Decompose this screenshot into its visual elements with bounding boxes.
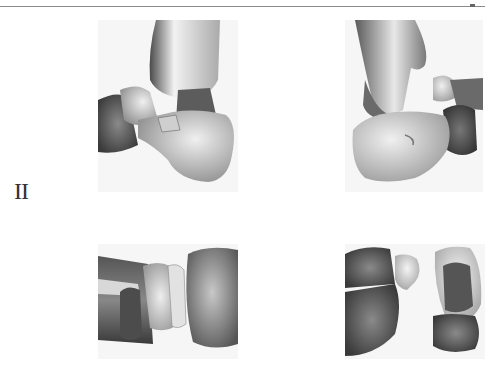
bone-render-image	[345, 244, 485, 359]
header-rule	[0, 6, 485, 7]
figure-panel-top-left	[98, 20, 238, 192]
bone-render-image	[98, 20, 238, 192]
figure-panel-top-right	[345, 20, 483, 192]
bone-render-image	[345, 20, 483, 192]
figure-panel-bottom-right	[345, 244, 485, 359]
section-label: II	[14, 178, 28, 205]
bone-render-image	[98, 244, 238, 359]
figure-panel-bottom-left	[98, 244, 238, 359]
header-rule-mark	[470, 4, 475, 7]
